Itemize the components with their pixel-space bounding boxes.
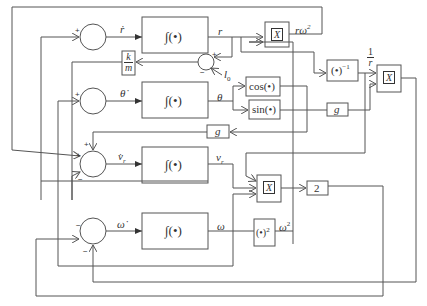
- sum-junction-omega: [80, 218, 106, 244]
- signal-vr-dot: v̇r: [118, 151, 126, 165]
- sign-vr-minus: −: [78, 176, 83, 184]
- cos-label: cos(•): [249, 81, 275, 92]
- diagram-wiring: [0, 0, 427, 306]
- signal-r-dot: ṙ: [120, 24, 124, 35]
- sign-l0-minus: −: [200, 69, 205, 77]
- sign-vr-plus-left: +: [76, 152, 81, 160]
- square-text: (•): [256, 227, 266, 238]
- inverse-text: (•): [331, 64, 342, 76]
- r-omega-text: rω: [295, 24, 307, 36]
- omega2-text: ω: [279, 221, 287, 233]
- signal-one-over-r: 1 r: [367, 47, 374, 68]
- signal-omega: ω: [217, 221, 225, 232]
- omega2-exp: 2: [287, 220, 291, 228]
- sign-r-plus: +: [75, 27, 80, 35]
- sign-omega-minus-left: −: [76, 222, 81, 230]
- signal-vr: vr: [216, 152, 224, 166]
- g-label-right: g: [334, 104, 340, 115]
- vr-sub: r: [221, 158, 224, 166]
- mult-icon-1: X: [271, 28, 283, 41]
- r-omega-exp: 2: [307, 23, 311, 31]
- signal-r-omega2: rω2: [295, 24, 311, 36]
- signal-l0: l0: [224, 69, 231, 83]
- k-over-m-label: k m: [124, 52, 133, 73]
- mult-icon-2: X: [383, 71, 395, 84]
- sign-omega-minus-bottom: −: [83, 248, 88, 256]
- signal-omega2: ω2: [279, 221, 290, 233]
- integrator-r-label: ∫(•): [165, 30, 182, 43]
- sum-junction-vr: [80, 151, 106, 177]
- gain-2-label: 2: [314, 183, 320, 194]
- m-text: m: [124, 63, 133, 73]
- signal-r: r: [218, 26, 222, 37]
- sign-theta-plus: +: [75, 91, 80, 99]
- vr-dot-sub: r: [123, 157, 126, 165]
- integrator-omega-label: ∫(•): [165, 224, 182, 237]
- sin-label: sin(•): [252, 104, 276, 115]
- one-over-r-den: r: [367, 58, 374, 68]
- inverse-exp: −1: [342, 63, 349, 71]
- integrator-vr-label: ∫(•): [165, 158, 182, 171]
- signal-omega-dot: ω̇: [117, 219, 125, 230]
- mult-icon-3: X: [263, 181, 275, 194]
- sign-vr-plus-top: +: [84, 141, 89, 149]
- sum-junction-r: [80, 24, 106, 50]
- g-label-left: g: [215, 126, 221, 137]
- square-label: (•)2: [256, 227, 270, 238]
- square-exp: 2: [266, 226, 270, 234]
- inverse-label: (•)−1: [331, 64, 350, 76]
- signal-theta: θ: [217, 92, 222, 103]
- sign-l0-plus: +: [212, 51, 217, 59]
- integrator-theta-label: ∫(•): [165, 94, 182, 107]
- signal-theta-dot: θ̇: [120, 88, 125, 99]
- l0-sub: 0: [227, 75, 231, 83]
- sum-junction-theta: [80, 88, 106, 114]
